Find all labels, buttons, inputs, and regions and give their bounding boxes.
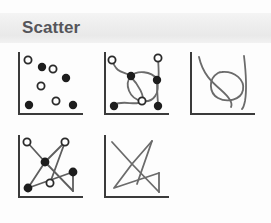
- markers-filled: [110, 72, 162, 110]
- chart-thumbnail-scatter-smooth-lines-and-markers[interactable]: [99, 49, 173, 123]
- chart-thumbnail-scatter-markers-only[interactable]: [13, 49, 87, 123]
- scatter-smooth-lines-svg: [185, 49, 259, 123]
- straight-series-lines: [112, 141, 159, 192]
- smooth-series-lines: [112, 58, 159, 106]
- page-title: Scatter: [22, 17, 80, 39]
- chart-type-gallery: [0, 43, 271, 223]
- chart-thumbnail-scatter-straight-lines-and-markers[interactable]: [13, 132, 87, 206]
- chart-thumbnail-scatter-straight-lines[interactable]: [99, 132, 173, 206]
- scatter-smooth-lines-and-markers-svg: [99, 49, 173, 123]
- chart-thumbnail-scatter-smooth-lines[interactable]: [185, 49, 259, 123]
- scatter-markers-only-svg: [13, 49, 87, 123]
- smooth-series-lines: [199, 56, 246, 109]
- scatter-straight-lines-svg: [99, 132, 173, 206]
- scatter-straight-lines-and-markers-svg: [13, 132, 87, 206]
- figure-page: Scatter: [0, 0, 271, 223]
